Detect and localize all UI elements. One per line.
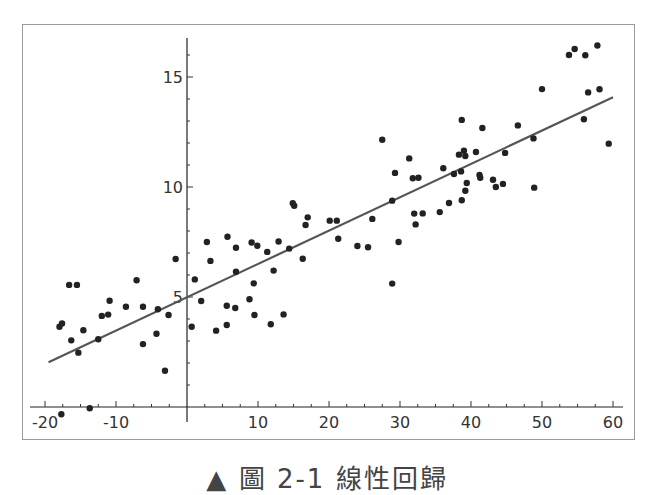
data-point — [224, 234, 230, 240]
data-point — [251, 312, 257, 318]
data-point — [459, 117, 465, 123]
data-point — [354, 243, 360, 249]
data-point — [264, 249, 270, 255]
data-point — [379, 137, 385, 143]
data-point — [224, 303, 230, 309]
figure-caption: ▲ 圖 2-1 線性回歸 — [0, 458, 654, 495]
y-tick-label: 10 — [163, 178, 183, 197]
data-point — [410, 175, 416, 181]
data-point — [479, 125, 485, 131]
data-point — [59, 320, 65, 326]
x-tick-label: 50 — [532, 413, 552, 432]
data-point — [68, 337, 74, 343]
data-point — [437, 209, 443, 215]
data-point — [140, 303, 146, 309]
data-point — [451, 171, 457, 177]
data-point — [233, 269, 239, 275]
data-point — [596, 86, 602, 92]
data-point — [566, 52, 572, 58]
data-point — [446, 200, 452, 206]
data-point — [473, 149, 479, 155]
data-point — [335, 236, 341, 242]
data-point — [268, 321, 274, 327]
data-point — [594, 42, 600, 48]
data-point — [389, 197, 395, 203]
data-point — [389, 280, 395, 286]
data-point — [213, 327, 219, 333]
data-point — [392, 170, 398, 176]
data-point — [334, 217, 340, 223]
data-point — [198, 298, 204, 304]
data-point — [140, 341, 146, 347]
data-point — [155, 306, 161, 312]
data-point — [275, 238, 281, 244]
data-point — [246, 296, 252, 302]
data-point — [515, 122, 521, 128]
data-point — [581, 116, 587, 122]
data-point — [411, 210, 417, 216]
data-point — [232, 305, 238, 311]
data-point — [153, 331, 159, 337]
data-point — [207, 258, 213, 264]
data-point — [192, 276, 198, 282]
data-point — [531, 184, 537, 190]
data-point — [204, 239, 210, 245]
data-point — [74, 282, 80, 288]
data-point — [105, 311, 111, 317]
tick-labels: -20-1010203040506051015 — [32, 68, 623, 432]
data-point — [500, 181, 506, 187]
data-point — [406, 155, 412, 161]
data-point — [251, 280, 257, 286]
data-point — [162, 368, 168, 374]
data-point — [582, 52, 588, 58]
data-point — [123, 303, 129, 309]
regression-line — [49, 97, 613, 362]
data-point — [286, 245, 292, 251]
data-point — [133, 277, 139, 283]
data-point — [172, 256, 178, 262]
data-point — [188, 324, 194, 330]
x-tick-label: 30 — [390, 413, 410, 432]
data-point — [415, 175, 421, 181]
x-tick-label: 20 — [319, 413, 339, 432]
data-point — [490, 177, 496, 183]
y-tick-label: 15 — [163, 68, 183, 87]
data-point — [80, 327, 86, 333]
data-point — [233, 245, 239, 251]
data-point — [99, 313, 105, 319]
data-point — [66, 282, 72, 288]
axes — [30, 38, 623, 422]
data-point — [395, 239, 401, 245]
data-point — [530, 135, 536, 141]
data-point — [165, 312, 171, 318]
data-point — [412, 221, 418, 227]
data-point — [106, 298, 112, 304]
data-point — [87, 405, 93, 411]
data-point — [462, 188, 468, 194]
data-point — [464, 180, 470, 186]
x-tick-label: -10 — [103, 413, 129, 432]
data-point — [254, 243, 260, 249]
data-point — [95, 336, 101, 342]
data-point — [302, 222, 308, 228]
x-tick-label: 40 — [461, 413, 481, 432]
data-point — [477, 175, 483, 181]
data-points — [56, 42, 612, 417]
data-point — [502, 150, 508, 156]
data-point — [305, 214, 311, 220]
data-point — [571, 46, 577, 52]
x-tick-label: 60 — [603, 413, 623, 432]
data-point — [459, 197, 465, 203]
data-point — [224, 322, 230, 328]
data-point — [420, 210, 426, 216]
data-point — [291, 203, 297, 209]
data-point — [458, 168, 464, 174]
data-point — [456, 151, 462, 157]
data-point — [280, 311, 286, 317]
data-point — [300, 256, 306, 262]
data-point — [327, 217, 333, 223]
data-point — [75, 349, 81, 355]
data-point — [369, 216, 375, 222]
data-point — [493, 184, 499, 190]
